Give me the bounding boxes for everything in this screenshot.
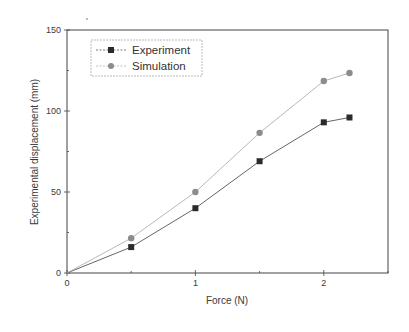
data-point-square xyxy=(346,114,352,120)
chart: 050100150 012 Force (N) Experimental dis… xyxy=(0,0,409,332)
data-point-circle xyxy=(321,78,327,84)
data-point-circle xyxy=(256,130,262,136)
speck xyxy=(86,18,88,20)
legend: Experiment Simulation xyxy=(91,40,202,76)
legend-label-simulation: Simulation xyxy=(132,60,186,72)
data-point-square xyxy=(257,158,263,164)
y-axis-ticks: 050100150 xyxy=(46,25,70,278)
circle-marker-icon xyxy=(108,63,114,69)
x-tick-label: 2 xyxy=(321,278,326,288)
x-tick-label: 1 xyxy=(193,278,198,288)
data-point-square xyxy=(128,244,134,250)
data-point-square xyxy=(192,205,198,211)
data-point-circle xyxy=(192,189,198,195)
data-point-circle xyxy=(128,235,134,241)
y-tick-label: 50 xyxy=(51,187,61,197)
legend-label-experiment: Experiment xyxy=(132,44,191,56)
y-axis-title: Experimental displacement (mm) xyxy=(29,79,40,225)
y-tick-label: 0 xyxy=(56,268,61,278)
y-tick-label: 150 xyxy=(46,25,61,35)
series-line-simulation xyxy=(67,73,349,273)
data-point-square xyxy=(321,119,327,125)
data-point-circle xyxy=(346,70,352,76)
y-tick-label: 100 xyxy=(46,106,61,116)
series-layer xyxy=(67,70,353,273)
square-marker-icon xyxy=(108,47,114,53)
x-tick-label: 0 xyxy=(64,278,69,288)
x-axis-title: Force (N) xyxy=(206,295,248,306)
